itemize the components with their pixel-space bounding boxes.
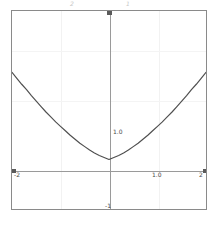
xlabel-neg2: -2 (14, 171, 20, 178)
ylabel-neg1: -1 (105, 202, 111, 209)
top-annotation-right: 1 (126, 0, 130, 8)
plot-frame: 1.0 1.0 -2 2 -1 (11, 10, 207, 210)
tick-y-top (107, 11, 112, 15)
xlabel-1: 1.0 (152, 171, 162, 178)
figure-canvas: 2 1 1.0 1.0 -2 2 -1 (0, 0, 219, 226)
ylabel-1: 1.0 (113, 128, 123, 135)
curve-plot (12, 11, 206, 209)
xlabel-pos2: 2 (199, 171, 203, 178)
tick-x-pos2 (203, 169, 207, 173)
top-annotation-left: 2 (70, 0, 74, 8)
